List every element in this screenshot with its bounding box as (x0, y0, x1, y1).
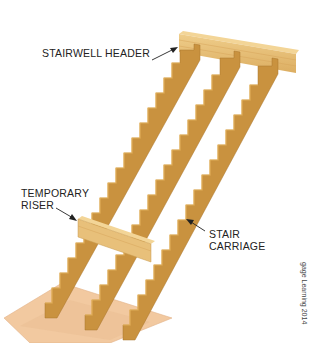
temporary-riser-label-line1: TEMPORARY (21, 187, 89, 199)
stairwell-header-label: STAIRWELL HEADER (42, 47, 150, 59)
stair-carriage-3 (123, 58, 278, 340)
temporary-riser-label-line2: RISER (21, 199, 54, 211)
image-credit: gage Learning 2014 (301, 262, 308, 324)
stair-carriage-label-line2: CARRIAGE (209, 240, 265, 252)
stair-carriage-label-line1: STAIR (209, 228, 240, 240)
